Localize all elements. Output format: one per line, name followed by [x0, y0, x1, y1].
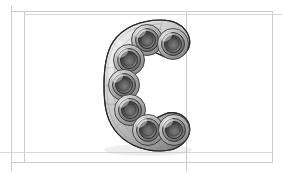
- c-bracket-plate-svg[interactable]: [0, 0, 282, 173]
- model-render-layer[interactable]: [0, 0, 282, 173]
- cad-viewport[interactable]: c-bracket-plate C-shaped link plate with…: [0, 0, 282, 173]
- render-noise: [104, 20, 190, 151]
